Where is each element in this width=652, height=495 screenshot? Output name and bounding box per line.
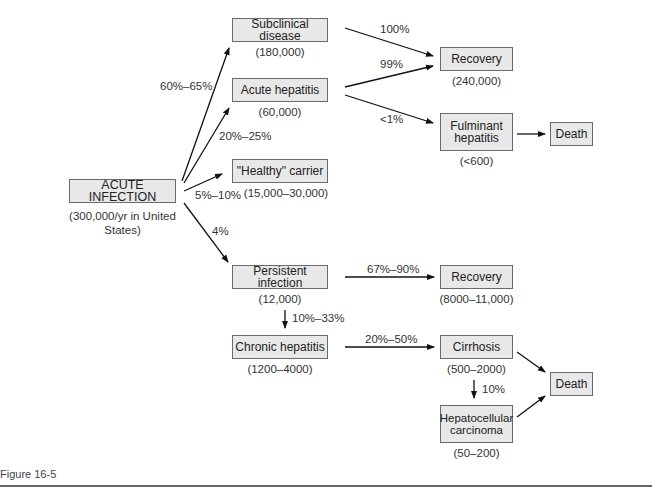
count-subclinical-disease: (180,000) — [232, 46, 328, 58]
label-to-carrier: 5%–10% — [195, 189, 241, 201]
node-hepatocellular-carcinoma: Hepatocellular carcinoma — [440, 405, 513, 443]
count-fulminant-hepatitis: (<600) — [440, 155, 513, 167]
node-fulminant-hepatitis: Fulminant hepatitis — [440, 113, 513, 151]
arrow-hcc-death — [517, 396, 545, 417]
count-recovery-1: (240,000) — [440, 75, 513, 87]
caption-rule — [0, 485, 652, 487]
arrows-layer — [0, 0, 652, 495]
node-death-1: Death — [550, 122, 593, 146]
label-chronic-cirrhosis: 20%–50% — [365, 333, 417, 345]
node-healthy-carrier: "Healthy" carrier — [232, 159, 328, 183]
node-death-2: Death — [550, 372, 593, 396]
count-recovery-2: (8000–11,000) — [430, 293, 523, 305]
arrow-cirrhosis-death — [517, 352, 545, 372]
figure-caption: Figure 16-5 — [0, 468, 56, 480]
node-chronic-hepatitis: Chronic hepatitis — [232, 335, 328, 359]
node-acute-hepatitis: Acute hepatitis — [232, 78, 328, 102]
node-subclinical-disease: Subclinical disease — [232, 18, 328, 42]
label-persistent-recovery: 67%–90% — [367, 263, 419, 275]
label-acute-recovery: 99% — [380, 58, 403, 70]
count-acute-hepatitis: (60,000) — [232, 106, 328, 118]
label-cirrhosis-hcc: 10% — [482, 383, 505, 395]
arrow-to-acute-hepatitis — [184, 108, 229, 183]
count-cirrhosis: (500–2000) — [440, 363, 513, 375]
label-subclinical-recovery: 100% — [380, 23, 409, 35]
label-acute-fulminant: <1% — [380, 113, 403, 125]
count-acute-infection: (300,000/yr in United States) — [69, 209, 176, 237]
node-cirrhosis: Cirrhosis — [440, 335, 513, 359]
label-persistent-chronic: 10%–33% — [292, 312, 344, 324]
arrow-to-subclinical — [182, 48, 229, 181]
node-persistent-infection: Persistent infection — [232, 265, 328, 289]
count-chronic-hepatitis: (1200–4000) — [232, 363, 328, 375]
node-acute-infection: ACUTE INFECTION — [69, 179, 176, 203]
label-to-persistent: 4% — [212, 225, 229, 237]
count-healthy-carrier: (15,000–30,000) — [238, 187, 334, 199]
node-recovery-1: Recovery — [440, 47, 513, 71]
count-persistent-infection: (12,000) — [232, 293, 328, 305]
node-recovery-2: Recovery — [440, 265, 513, 289]
count-hepatocellular-carcinoma: (50–200) — [440, 447, 513, 459]
label-to-subclinical: 60%–65% — [160, 80, 212, 92]
label-to-acute-hepatitis: 20%–25% — [219, 130, 271, 142]
